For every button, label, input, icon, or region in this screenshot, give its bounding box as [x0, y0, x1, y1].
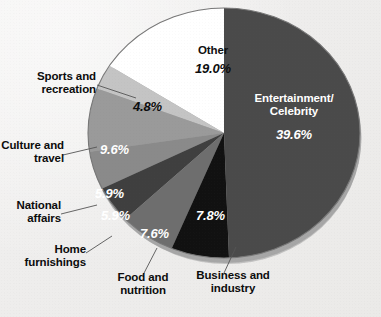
slice-value-entertainment-celebrity: 39.6%	[242, 127, 346, 142]
slice-label-other: Other	[176, 44, 250, 57]
slice-value-culture-and-travel: 9.6%	[100, 142, 129, 157]
leader-line-national-affairs	[61, 205, 97, 214]
slice-value-other: 19.0%	[182, 61, 244, 76]
slice-label-culture-and-travel: Culture and travel	[0, 139, 64, 165]
slice-value-national-affairs: 5.9%	[95, 186, 124, 201]
slice-value-sports-and-recreation: 4.8%	[133, 99, 162, 114]
slice-label-national-affairs: National affairs	[0, 199, 61, 225]
slice-label-sports-and-recreation: Sports and recreation	[16, 70, 96, 96]
slice-value-home-furnishings: 5.9%	[101, 208, 130, 223]
slice-label-business-and-industry: Business and industry	[185, 269, 281, 295]
pie-chart-figure: Other 19.0% Entertainment/ Celebrity 39.…	[0, 0, 381, 317]
slice-value-business-and-industry: 7.8%	[196, 208, 225, 223]
slice-value-food-and-nutrition: 7.6%	[140, 226, 169, 241]
slice-label-home-furnishings: Home furnishings	[4, 243, 86, 269]
leader-line-home-furnishings	[86, 236, 112, 253]
slice-label-entertainment-celebrity: Entertainment/ Celebrity	[242, 92, 346, 118]
slice-label-food-and-nutrition: Food and nutrition	[104, 271, 182, 297]
